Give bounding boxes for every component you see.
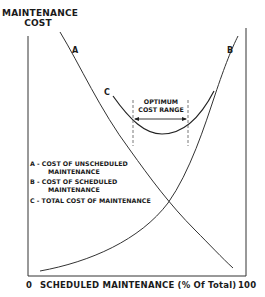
optimum-line1: OPTIMUM bbox=[131, 98, 191, 106]
curve-a-label: A bbox=[72, 46, 78, 55]
curve-c-label: C bbox=[104, 88, 110, 97]
curve-b-scheduled-cost bbox=[40, 36, 238, 271]
legend-c-line1: C - TOTAL COST OF MAINTENANCE bbox=[30, 197, 151, 205]
x-axis-title: SCHEDULED MAINTENANCE (% Of Total) bbox=[40, 280, 236, 290]
x-axis-end-label: 100 bbox=[238, 280, 256, 290]
optimum-line2: COST RANGE bbox=[131, 106, 191, 114]
y-axis-title: MAINTENANCE COST bbox=[2, 8, 74, 28]
optimum-cost-range-label: OPTIMUM COST RANGE bbox=[131, 98, 191, 114]
arrowhead-right-icon bbox=[182, 117, 187, 121]
legend-a: A - COST OF UNSCHEDULED MAINTENANCE bbox=[30, 160, 151, 176]
y-axis-title-line1: MAINTENANCE bbox=[2, 8, 74, 18]
legend: A - COST OF UNSCHEDULED MAINTENANCE B - … bbox=[30, 160, 151, 205]
legend-b-line1: B - COST OF SCHEDULED bbox=[30, 178, 151, 186]
legend-b-line2: MAINTENANCE bbox=[30, 186, 151, 194]
curve-b-label: B bbox=[227, 46, 233, 55]
legend-c: C - TOTAL COST OF MAINTENANCE bbox=[30, 197, 151, 205]
diagram-canvas bbox=[0, 0, 265, 297]
arrowhead-left-icon bbox=[134, 117, 139, 121]
legend-a-line1: A - COST OF UNSCHEDULED bbox=[30, 160, 151, 168]
legend-a-line2: MAINTENANCE bbox=[30, 168, 151, 176]
y-axis-title-line2: COST bbox=[2, 18, 74, 28]
curve-a-unscheduled-cost bbox=[60, 32, 233, 268]
legend-b: B - COST OF SCHEDULED MAINTENANCE bbox=[30, 178, 151, 194]
x-axis-start-label: 0 bbox=[26, 280, 32, 290]
